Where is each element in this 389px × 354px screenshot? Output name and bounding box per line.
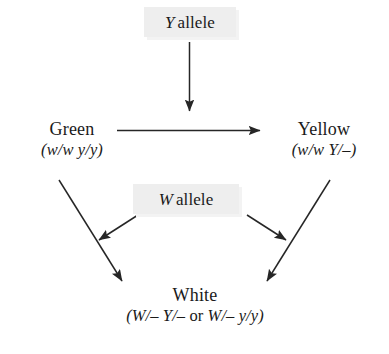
- w-allele-gene-symbol: W: [159, 191, 176, 208]
- node-green-genotype: (w/w y/y): [18, 139, 126, 160]
- node-yellow-phenotype: Yellow: [268, 120, 380, 139]
- w-allele-box: Wallele: [133, 184, 239, 214]
- node-green: Green (w/w y/y): [18, 120, 126, 161]
- node-white-genotype-option-2: W/– y/y: [208, 306, 259, 325]
- node-white-phenotype: White: [95, 286, 295, 305]
- w-allele-label: allele: [176, 191, 213, 208]
- y-allele-gene-symbol: Y: [165, 14, 178, 31]
- node-green-phenotype: Green: [18, 120, 126, 139]
- arrow-w-allele-down-left: [99, 215, 138, 240]
- node-white: White (W/– Y/– or W/– y/y): [95, 286, 295, 327]
- y-allele-box: Yallele: [144, 7, 236, 37]
- node-yellow: Yellow (w/w Y/–): [268, 120, 380, 161]
- y-allele-label: allele: [178, 14, 215, 31]
- arrow-w-allele-down-right: [247, 215, 286, 240]
- node-white-genotype-conjunction: or: [185, 306, 207, 325]
- node-white-genotype-option-1: W/– Y/–: [132, 306, 185, 325]
- node-white-genotype: (W/– Y/– or W/– y/y): [95, 305, 295, 326]
- arrow-green-to-white: [59, 180, 122, 281]
- node-yellow-genotype: (w/w Y/–): [268, 139, 380, 160]
- allele-pathway-diagram: Yallele Wallele Green (w/w y/y) Yellow (…: [0, 0, 389, 354]
- node-white-genotype-close: ): [258, 306, 264, 325]
- arrow-yellow-to-white: [267, 180, 330, 281]
